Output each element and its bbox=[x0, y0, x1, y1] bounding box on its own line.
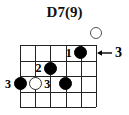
note-dot-s5-f1 bbox=[74, 46, 87, 59]
fret-line-1 bbox=[20, 61, 96, 62]
note-dot-s1-f3 bbox=[14, 77, 27, 90]
chord-name-title: D7(9) bbox=[0, 4, 129, 20]
fretboard-grid bbox=[20, 45, 96, 107]
finger-label-s5-f1: 1 bbox=[64, 47, 74, 59]
fret-position-number: 3 bbox=[115, 46, 122, 60]
fret-line-3 bbox=[20, 92, 96, 93]
arrow-left-icon bbox=[97, 48, 113, 58]
finger-label-s2-f3: 3 bbox=[42, 78, 52, 90]
note-dot-s4-f3 bbox=[59, 77, 72, 90]
finger-label-s3-f2: 2 bbox=[33, 62, 43, 74]
fret-line-0 bbox=[20, 45, 96, 46]
finger-label-s1-f3: 3 bbox=[3, 78, 13, 90]
fret-line-4 bbox=[20, 107, 96, 108]
chord-diagram-page: D7(9) 3 1233 bbox=[0, 0, 129, 115]
note-dot-s2-f3 bbox=[29, 77, 42, 90]
note-dot-s3-f2 bbox=[44, 62, 57, 75]
open-string-circle-icon bbox=[90, 27, 102, 39]
fret-position-indicator: 3 bbox=[97, 45, 122, 61]
